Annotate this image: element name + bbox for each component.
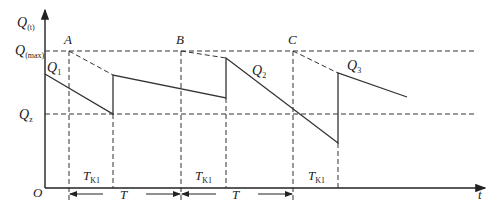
tk1-label-2: TK1 xyxy=(195,168,212,185)
curve-q2-label: Q2 xyxy=(252,63,266,80)
origin-label: O xyxy=(33,185,43,200)
tk1-label-1: TK1 xyxy=(83,168,100,185)
inventory-diagram: Q(t) Q(max) Qz O t A B C Q1 Q2 Q3 TK1 TK… xyxy=(0,0,503,211)
y-axis-label: Q(t) xyxy=(17,15,35,32)
curve-q3-label: Q3 xyxy=(347,58,361,75)
projection-b xyxy=(181,51,226,58)
curve-q1-label: Q1 xyxy=(47,60,61,77)
qmax-label: Q(max) xyxy=(15,43,45,60)
tk1-label-3: TK1 xyxy=(308,168,325,185)
x-axis-label: t xyxy=(478,187,482,202)
projection-a xyxy=(69,51,113,75)
period-label-2: T xyxy=(232,187,240,202)
projection-c xyxy=(293,51,338,73)
period-label-1: T xyxy=(120,187,128,202)
point-c-label: C xyxy=(288,32,297,47)
point-b-label: B xyxy=(176,32,184,47)
point-a-label: A xyxy=(63,32,72,47)
qz-label: Qz xyxy=(19,107,33,124)
